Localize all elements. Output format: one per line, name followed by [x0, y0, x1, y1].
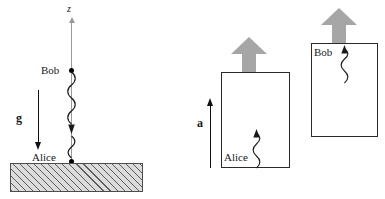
gravity-vector-line	[38, 90, 39, 144]
bob-label: Bob	[41, 65, 59, 76]
thrust-arrowhead-bob	[321, 8, 357, 25]
alice-label: Alice	[32, 152, 56, 163]
gravity-vector-label: g	[16, 112, 22, 124]
thrust-arrowhead-alice	[231, 37, 267, 54]
gravity-vector-arrowhead	[35, 142, 41, 150]
thrust-arrow-alice	[231, 37, 267, 77]
photon-in-cabin-alice	[248, 129, 265, 168]
acceleration-vector-arrowhead	[207, 98, 213, 106]
cabin-alice-occupant-label: Alice	[224, 152, 248, 163]
gravity-scenario-panel: z Bob g Alice	[0, 0, 190, 199]
photon-in-cabin-bob	[336, 45, 353, 83]
ground-hatched	[10, 163, 143, 192]
z-axis-arrowhead	[69, 17, 75, 23]
photon-bob-to-alice	[63, 72, 80, 134]
acceleration-vector-line	[210, 106, 211, 168]
accelerated-rocket-panel: a Alice Bob	[190, 0, 385, 199]
acceleration-vector-label: a	[197, 117, 203, 129]
cabin-bob-occupant-label: Bob	[314, 47, 332, 58]
thrust-arrow-bob	[321, 8, 357, 48]
physics-figure: z Bob g Alice a	[0, 0, 385, 199]
z-axis-label: z	[67, 4, 71, 14]
